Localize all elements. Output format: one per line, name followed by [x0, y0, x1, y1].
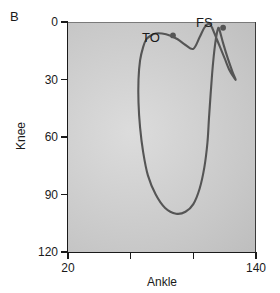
x-tick-label: 140 — [246, 262, 266, 274]
y-tick-label: 90 — [45, 189, 58, 201]
x-tick-label: 20 — [61, 262, 74, 274]
y-tick-mark — [61, 136, 68, 137]
y-tick-label: 120 — [38, 246, 58, 258]
panel-label: B — [10, 10, 19, 23]
y-tick-mark — [61, 194, 68, 195]
x-tick-mark — [130, 252, 131, 259]
figure-panel: B 0306090120 20140 Knee Ankle TO FS — [0, 0, 280, 293]
x-tick-mark — [255, 252, 256, 259]
x-axis-line — [67, 252, 256, 253]
x-tick-mark — [193, 252, 194, 259]
y-tick-label: 60 — [45, 131, 58, 143]
plot-border-top — [68, 22, 256, 23]
toe-off-label: TO — [142, 31, 160, 44]
y-tick-mark — [61, 21, 68, 22]
plot-area — [68, 22, 256, 252]
y-axis-title: Knee — [15, 106, 27, 166]
x-axis-title: Ankle — [68, 276, 256, 288]
y-tick-mark — [61, 79, 68, 80]
y-tick-label: 30 — [45, 74, 58, 86]
foot-strike-label: FS — [196, 16, 213, 29]
plot-border-right — [255, 22, 256, 253]
y-tick-label: 0 — [51, 16, 58, 28]
x-tick-mark — [67, 252, 68, 259]
